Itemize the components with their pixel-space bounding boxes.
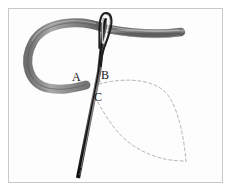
stitch-illustration [0,0,233,193]
dashed-petal-guideline [95,80,186,161]
point-label-c: C [94,91,102,103]
embroidery-stitch-figure: A B C [0,0,233,193]
point-label-b: B [101,69,109,81]
point-label-a: A [72,71,81,83]
